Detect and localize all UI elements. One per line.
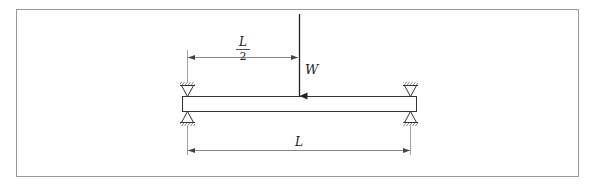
half-span-label: L 2 [236, 35, 250, 63]
left-support-top-icon [180, 82, 195, 97]
half-span-numerator: L [238, 35, 247, 49]
load-label: W [305, 62, 320, 77]
span-label: L [294, 135, 303, 149]
half-span-denominator: 2 [240, 50, 247, 63]
diagram-frame [17, 10, 579, 177]
beam-diagram: L 2 W L [0, 0, 592, 185]
right-support-top-icon [403, 82, 418, 97]
beam [183, 97, 417, 112]
right-support-bottom-icon [403, 112, 418, 127]
left-support-bottom-icon [180, 112, 195, 127]
